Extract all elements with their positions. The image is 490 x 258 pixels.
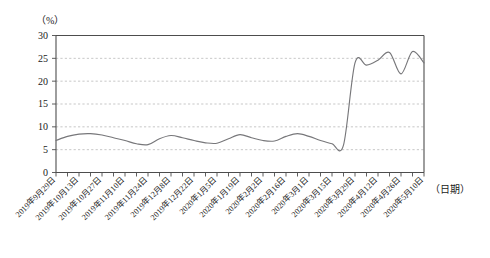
chart-plot-area: 051015202530 2019年9月29日2019年10月13日2019年1…	[0, 0, 490, 258]
y-tick-label: 15	[38, 98, 48, 109]
x-tick-label: 2020年2月16日	[243, 175, 287, 219]
y-tick-label: 20	[38, 76, 48, 87]
x-tick-label: 2020年4月12日	[335, 175, 379, 219]
x-tick-label: 2020年1月19日	[197, 175, 241, 219]
y-axis-ticks-group: 051015202530	[38, 30, 56, 178]
y-tick-label: 5	[43, 144, 48, 155]
gridlines-group	[56, 58, 424, 149]
x-tick-label: 2020年5月10日	[381, 175, 425, 219]
x-tick-label: 2020年3月15日	[289, 175, 333, 219]
y-tick-label: 30	[38, 30, 48, 41]
x-axis-ticks-group	[56, 173, 424, 177]
y-tick-label: 10	[38, 121, 48, 132]
x-tick-label: 2020年3月29日	[312, 175, 356, 219]
x-tick-label: 2020年4月26日	[358, 175, 402, 219]
x-tick-label: 2019年9月29日	[13, 175, 57, 219]
data-series-line	[56, 51, 424, 151]
x-tick-label: 2019年12月8日	[128, 175, 172, 219]
y-tick-label: 0	[43, 167, 48, 178]
y-tick-label: 25	[38, 53, 48, 64]
x-axis-labels-group: 2019年9月29日2019年10月13日2019年10月27日2019年11月…	[13, 175, 425, 222]
chart-figure: （%） （日期） 051015202530 2019年9月29日2019年10月…	[0, 0, 490, 258]
